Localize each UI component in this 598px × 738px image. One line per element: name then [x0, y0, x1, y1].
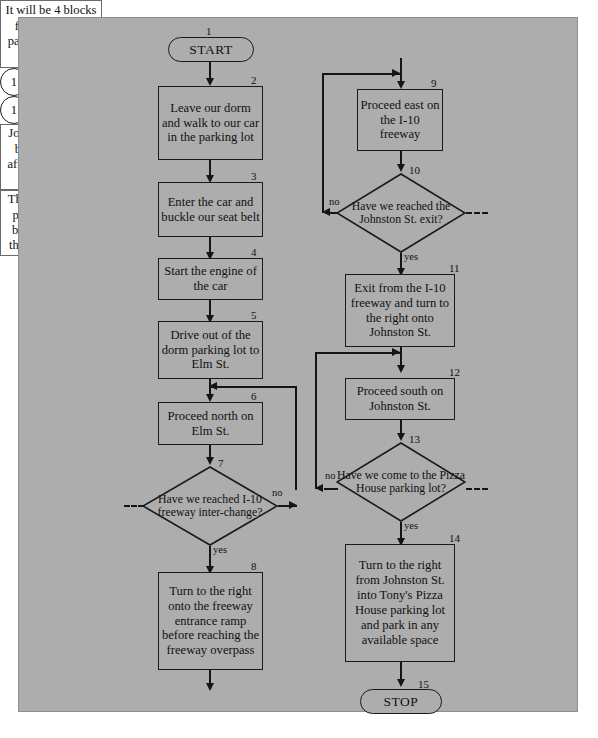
edge-label-13-yes: yes [404, 520, 418, 531]
edge-label-7-no: no [272, 487, 283, 498]
arrowhead-10-no [322, 208, 330, 216]
step-number-14: 14 [449, 532, 460, 544]
decision-label-7: Have we reached I-10 freeway inter-chang… [142, 466, 278, 546]
edge-label-10-yes: yes [404, 251, 418, 262]
step-number-1: 1 [206, 25, 212, 37]
process-box-6: Proceed north on Elm St. [158, 402, 263, 445]
process-box-2: Leave our dorm and walk to our car in th… [158, 86, 263, 160]
process-box-12: Proceed south on Johnston St. [345, 378, 455, 420]
decision-label-10: Have we reached the Johnston St. exit? [336, 173, 466, 253]
diagram-panel [18, 17, 578, 712]
decision-diamond-10: Have we reached the Johnston St. exit? [336, 173, 466, 253]
arrowhead-8-to-connector [206, 683, 214, 691]
decision-diamond-7: Have we reached I-10 freeway inter-chang… [142, 466, 278, 546]
arrowhead-5-to-6 [206, 394, 214, 402]
edge-label-10-no: no [329, 196, 340, 207]
process-box-3: Enter the car and buckle our seat belt [158, 182, 263, 237]
step-number-2: 2 [251, 74, 257, 86]
edge-10-no [330, 212, 338, 214]
step-number-6: 6 [251, 390, 257, 402]
process-box-14: Turn to the right from Johnston St. into… [345, 544, 455, 662]
arrowhead-loop-7-no [209, 382, 217, 390]
arrowhead-6-to-7 [206, 457, 214, 465]
arrowhead-start-to-2 [206, 78, 214, 86]
decision-label-13: Have we come to the Pizza House parking … [336, 442, 466, 522]
loop-13-no-vertical [315, 352, 317, 489]
step-number-8: 8 [251, 560, 257, 572]
arrowhead-9-to-10 [397, 164, 405, 172]
step-number-5: 5 [251, 309, 257, 321]
process-box-11: Exit from the I-10 freeway and turn to t… [345, 274, 455, 347]
arrowhead-loop-13-no [392, 348, 400, 356]
edge-label-7-yes: yes [213, 544, 227, 555]
loop-7-no-horizontal [209, 386, 297, 388]
arrowhead-13-no [315, 484, 323, 492]
terminal-start: START [168, 37, 254, 62]
process-box-9: Proceed east on the I-10 freeway [357, 89, 443, 151]
arrowhead-12-to-13 [397, 433, 405, 441]
loop-10-no-horizontal [322, 73, 402, 75]
step-number-12: 12 [449, 366, 460, 378]
loop-10-no-vertical [322, 73, 324, 213]
step-number-3: 3 [251, 170, 257, 182]
step-number-9: 9 [431, 77, 437, 89]
decision-diamond-13: Have we come to the Pizza House parking … [336, 442, 466, 522]
process-box-8: Turn to the right onto the freeway entra… [158, 572, 263, 670]
process-box-4: Start the engine of the car [158, 258, 263, 300]
note-connector-left [124, 505, 144, 507]
terminal-stop: STOP [360, 689, 442, 714]
edge-13-no [324, 488, 338, 490]
loop-13-no-horizontal [315, 352, 402, 354]
step-number-4: 4 [251, 246, 257, 258]
arrowhead-7-no [289, 501, 297, 509]
arrowhead-connector-to-9 [397, 81, 405, 89]
note-connector-pizza [466, 488, 488, 490]
step-number-11: 11 [449, 262, 460, 274]
loop-7-no-vertical [295, 386, 297, 490]
arrowhead-14-to-stop [397, 679, 405, 687]
note-connector-johnston [466, 212, 488, 214]
arrowhead-11-to-12 [397, 365, 405, 373]
arrowhead-loop-10-no [392, 69, 400, 77]
flowchart-page: 1 START 2 Leave our dorm and walk to our… [0, 0, 598, 738]
edge-label-13-no: no [325, 470, 336, 481]
process-box-5: Drive out of the dorm parking lot to Elm… [158, 321, 263, 379]
